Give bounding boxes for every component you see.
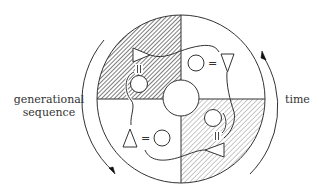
label-time: time [285,93,310,106]
top-right-symbols: = [188,54,234,72]
quadrant-bottom-right-hatch [181,99,265,183]
equals-vertical-icon [135,64,143,74]
equals-sign: = [141,132,150,145]
circle-icon [188,55,204,71]
equals-sign: = [208,57,217,70]
circle-icon [131,76,148,93]
equals-vertical-icon [213,131,221,141]
arrowhead-icon [261,51,266,60]
triangle-up-icon [123,129,137,147]
center-circle [163,80,199,116]
cyclic-diagram: = = genera [0,0,319,192]
circle-icon [154,130,170,146]
arrowhead-icon [109,167,115,174]
label-sequence: sequence [23,106,76,119]
triangle-down-icon [221,54,234,72]
circle-icon [205,110,222,127]
label-generational: generational [14,93,85,106]
bottom-left-symbols: = [123,129,170,147]
